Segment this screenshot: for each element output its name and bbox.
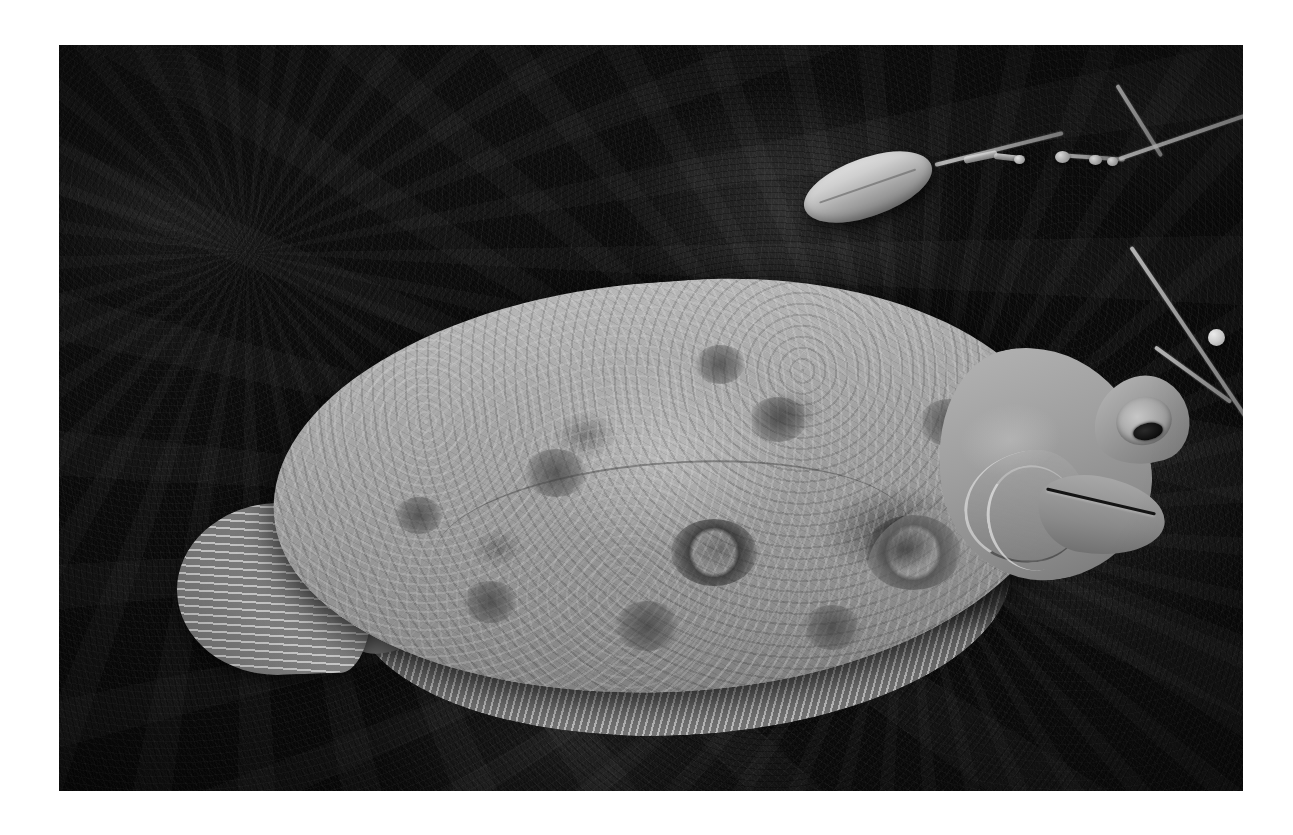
lateral-line: [430, 446, 908, 557]
photograph: [59, 45, 1243, 791]
flounder: [59, 45, 1243, 791]
page-root: [0, 0, 1293, 835]
